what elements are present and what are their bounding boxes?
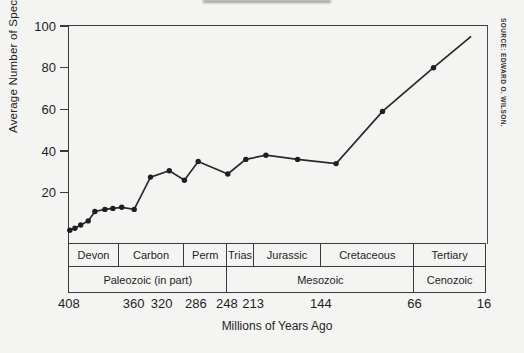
data-point-200ma <box>263 153 268 158</box>
y-tick-100 <box>60 25 68 26</box>
species-diversity-line-chart <box>69 26 487 244</box>
x-tick-label-66: 66 <box>407 297 421 311</box>
period-cell-carbon: Carbon <box>118 243 183 267</box>
data-point-53ma <box>431 65 436 70</box>
period-label: Trias <box>228 249 252 261</box>
data-point-404ma <box>72 226 77 231</box>
figure-page: Average Number of Species per Flora Ecos… <box>0 0 524 353</box>
data-point-393ma <box>86 218 91 223</box>
x-tick-label-320: 320 <box>151 297 173 311</box>
scan-artifact <box>203 0 331 3</box>
y-tick-40 <box>60 150 68 151</box>
x-tick-label-248: 248 <box>216 297 238 311</box>
period-label: Cretaceous <box>339 249 395 261</box>
y-tick-label-100: 100 <box>26 20 56 33</box>
data-point-337ma <box>148 174 153 179</box>
y-tick-20 <box>60 192 68 193</box>
period-cell-cretaceous: Cretaceous <box>320 243 413 267</box>
period-label: Devon <box>78 249 110 261</box>
data-point-375ma <box>110 206 115 211</box>
y-tick-label-60: 60 <box>26 103 56 116</box>
y-tick-label-20: 20 <box>26 186 56 199</box>
period-label: Jurassic <box>267 249 307 261</box>
period-label: Carbon <box>133 249 169 261</box>
data-point-313ma <box>167 168 172 173</box>
period-cell-tertiary: Tertiary <box>413 243 485 267</box>
era-label: Cenozoic <box>427 274 473 286</box>
data-point-360ma <box>132 207 137 212</box>
era-label: Mesozoic <box>297 274 343 286</box>
data-point-248ma <box>225 171 230 176</box>
period-cell-devon: Devon <box>68 243 118 267</box>
period-label: Tertiary <box>432 249 468 261</box>
data-point-224ma <box>243 157 248 162</box>
period-cell-jurassic: Jurassic <box>253 243 321 267</box>
source-credit: SOURCE: EDWARD O. WILSON. <box>500 18 507 148</box>
x-tick-label-144: 144 <box>310 297 332 311</box>
data-point-284ma <box>196 159 201 164</box>
data-point-169ma <box>295 157 300 162</box>
data-point-400ma <box>78 222 83 227</box>
y-tick-label-80: 80 <box>26 61 56 74</box>
y-tick-80 <box>60 67 68 68</box>
x-tick-label-408: 408 <box>58 297 80 311</box>
period-cell-perm: Perm <box>183 243 226 267</box>
data-point-388ma <box>92 209 97 214</box>
y-tick-60 <box>60 109 68 110</box>
x-tick-label-360: 360 <box>123 297 145 311</box>
geologic-era-band: Paleozoic (in part)MesozoicCenozoic <box>68 267 486 293</box>
data-point-381ma <box>102 207 107 212</box>
data-point-131ma <box>333 161 338 166</box>
data-point-94ma <box>380 109 385 114</box>
x-tick-label-16: 16 <box>477 297 491 311</box>
x-axis-tick-labels: 4083603202862482131446616 <box>68 297 486 311</box>
era-cell-paleozoic-in-part: Paleozoic (in part) <box>68 267 226 293</box>
era-cell-mesozoic: Mesozoic <box>226 267 413 293</box>
era-cell-cenozoic: Cenozoic <box>413 267 485 293</box>
data-point-368ma <box>119 205 124 210</box>
period-cell-trias: Trias <box>226 243 252 267</box>
era-label: Paleozoic (in part) <box>103 274 192 286</box>
period-label: Perm <box>192 249 218 261</box>
data-point-408ma <box>67 228 72 233</box>
x-tick-label-213: 213 <box>242 297 264 311</box>
diversity-trend-line <box>70 36 471 230</box>
y-tick-label-40: 40 <box>26 145 56 158</box>
geologic-period-band: DevonCarbonPermTriasJurassicCretaceousTe… <box>68 243 486 267</box>
plot-area: 10080604020 <box>68 25 488 244</box>
data-point-298ma <box>182 178 187 183</box>
x-tick-label-286: 286 <box>185 297 207 311</box>
x-axis-title: Millions of Years Ago <box>68 319 486 333</box>
